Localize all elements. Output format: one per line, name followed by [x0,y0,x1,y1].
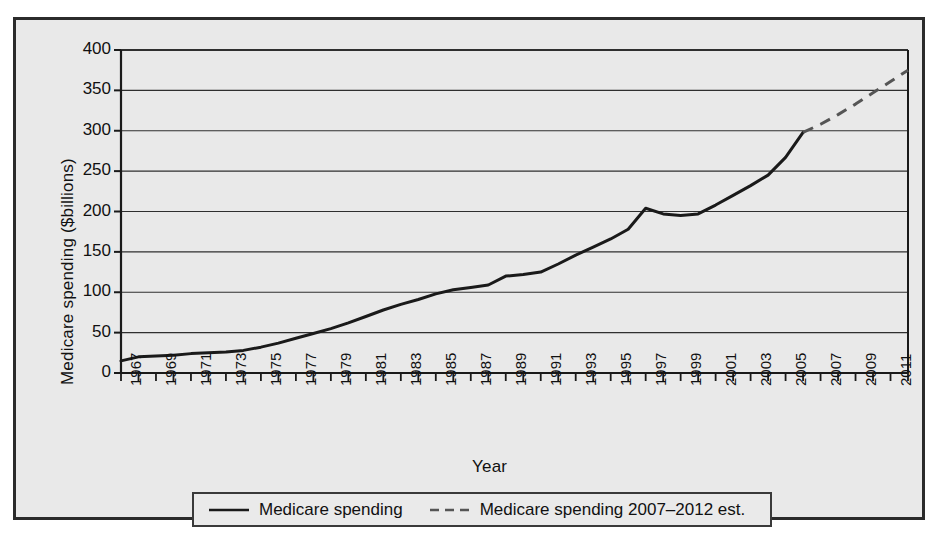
legend-item-medicare-spending-estimate: Medicare spending 2007–2012 est. [429,500,746,520]
x-tick-label: 1987 [477,353,494,386]
x-tick-label: 1989 [512,353,529,386]
figure-canvas: 050100150200250300350400 196719691971197… [0,0,943,540]
x-tick-label: 1997 [652,353,669,386]
x-axis-title: Year [472,457,507,477]
x-tick-label: 1967 [127,353,144,386]
x-tick-label: 2005 [792,353,809,386]
legend-solid-line-icon [208,503,250,517]
legend-label-medicare-spending-estimate: Medicare spending 2007–2012 est. [480,500,746,520]
y-axis-title: Medicare spending ($billions) [58,158,78,385]
x-tick-label: 1971 [197,353,214,386]
x-tick-label: 1973 [232,353,249,386]
x-tick-label: 1979 [337,353,354,386]
x-tick-label: 1995 [617,353,634,386]
x-tick-label: 1983 [407,353,424,386]
x-tick-label: 2001 [722,353,739,386]
x-tick-label: 1977 [302,353,319,386]
y-tick-label: 300 [65,120,111,140]
chart-plot-svg [16,20,922,517]
series-line-medicare-spending [121,132,803,361]
chart-legend: Medicare spending Medicare spending 2007… [192,492,772,527]
x-tick-label: 2011 [897,354,914,386]
x-tick-label: 1981 [372,353,389,386]
x-tick-label: 1999 [687,353,704,386]
x-tick-label: 1975 [267,353,284,386]
x-tick-label: 1985 [442,353,459,386]
x-tick-label: 2009 [862,353,879,386]
gridlines-group [121,50,908,373]
x-tick-label: 2007 [827,353,844,386]
legend-label-medicare-spending: Medicare spending [259,500,403,520]
series-line-medicare-spending-estimate [803,70,908,132]
x-tick-label: 1993 [582,353,599,386]
x-tick-label: 1969 [162,353,179,386]
y-tick-label: 350 [65,79,111,99]
legend-dashed-line-icon [429,503,471,517]
legend-item-medicare-spending: Medicare spending [208,500,403,520]
y-tick-label: 400 [65,39,111,59]
chart-frame: 050100150200250300350400 196719691971197… [13,17,925,520]
x-tick-label: 1991 [547,353,564,386]
x-tick-label: 2003 [757,353,774,386]
